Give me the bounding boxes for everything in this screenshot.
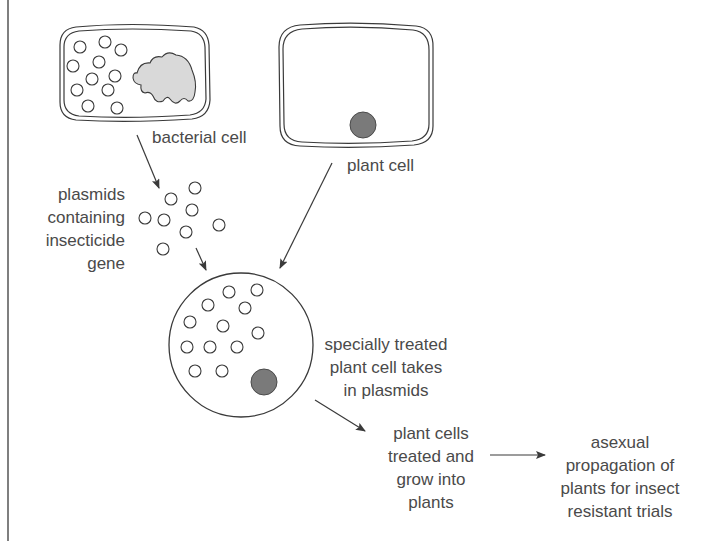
plasmid-circle xyxy=(180,226,192,238)
plasmid-circle xyxy=(74,41,86,53)
diagram-canvas: bacterial cell plant cell plasmids conta… xyxy=(0,0,716,542)
treated-plant-cell xyxy=(169,273,313,417)
plasmid-circle xyxy=(67,60,79,72)
label-bacterial-cell: bacterial cell xyxy=(152,126,247,149)
free-plasmids xyxy=(139,182,225,255)
plasmid-circle xyxy=(86,73,98,85)
plasmid-circle xyxy=(109,70,121,82)
plasmid-circle xyxy=(202,299,214,311)
plasmid-circle xyxy=(158,214,170,226)
plasmid-circle xyxy=(82,100,94,112)
label-plant-cell: plant cell xyxy=(347,154,414,177)
treated-cell-plasmids xyxy=(181,284,264,377)
plasmid-circle xyxy=(239,302,251,314)
plasmid-circle xyxy=(99,36,111,48)
plasmid-circle xyxy=(184,316,196,328)
plasmid-circle xyxy=(217,320,229,332)
plasmid-circle xyxy=(223,286,235,298)
label-plasmids: plasmids containing insecticide gene xyxy=(20,183,125,275)
arrow-treated-cell-to-grow-plants xyxy=(315,400,365,431)
plasmid-circle xyxy=(231,341,243,353)
plasmid-circle xyxy=(213,219,225,231)
plasmid-circle xyxy=(71,84,83,96)
plant-cell xyxy=(279,23,433,147)
plasmid-circle xyxy=(93,56,105,68)
plasmid-circle xyxy=(181,341,193,353)
plasmid-circle xyxy=(189,365,201,377)
plasmid-circle xyxy=(251,284,263,296)
plant-cell-nucleus xyxy=(350,112,376,138)
plasmid-circle xyxy=(111,102,123,114)
plasmid-circle xyxy=(252,327,264,339)
plasmid-circle xyxy=(204,341,216,353)
bacterial-plasmids xyxy=(67,36,127,114)
plasmid-circle xyxy=(216,365,228,377)
bacterial-cell xyxy=(60,25,210,122)
label-propagation: asexual propagation of plants for insect… xyxy=(550,431,690,523)
label-treated-cell: specially treated plant cell takes in pl… xyxy=(316,333,456,402)
arrow-plant-cell-to-treated-cell xyxy=(280,163,332,268)
plasmid-circle xyxy=(165,193,177,205)
bacterial-dna-blob xyxy=(133,53,196,103)
plasmid-circle xyxy=(186,204,198,216)
plasmid-circle xyxy=(139,212,151,224)
plasmid-circle xyxy=(189,182,201,194)
treated-cell-nucleus xyxy=(251,369,277,395)
plasmid-circle xyxy=(115,44,127,56)
plasmid-circle xyxy=(102,84,114,96)
arrow-plasmids-to-treated-cell xyxy=(196,248,206,270)
label-grow-plants: plant cells treated and grow into plants xyxy=(381,422,481,514)
plasmid-circle xyxy=(157,243,169,255)
